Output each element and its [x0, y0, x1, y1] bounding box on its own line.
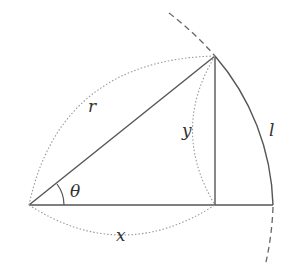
label-x: x: [116, 225, 126, 245]
label-r: r: [88, 96, 97, 116]
label-l: l: [269, 120, 274, 140]
label-y: y: [181, 120, 192, 140]
label-theta: θ: [70, 181, 80, 201]
dashed-arc-top: [169, 13, 215, 56]
diagram-canvas: r y l θ x: [0, 0, 289, 277]
angle-arc: [57, 184, 64, 205]
dotted-brace-y: [193, 56, 216, 205]
dashed-arc-bottom: [266, 207, 273, 262]
arc-l: [215, 56, 273, 205]
